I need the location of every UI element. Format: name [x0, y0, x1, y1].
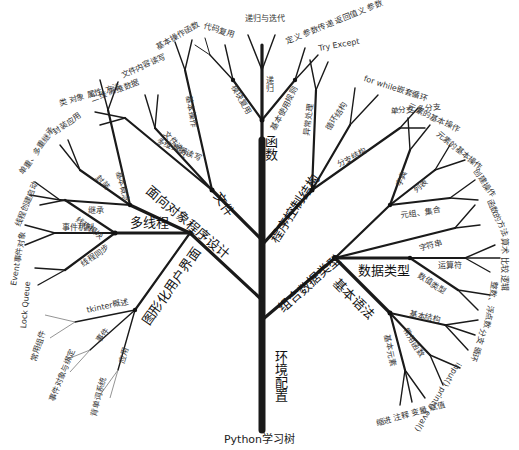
diagram-caption: Python学习树 — [0, 430, 519, 446]
label-datatype: 数据类型 — [358, 264, 410, 277]
label-thread: 多线程 — [130, 216, 169, 229]
leaf-arith-compare: 算术 比较 逻辑 — [500, 238, 508, 291]
label-trunk: 环境配置 — [274, 350, 287, 402]
sub-event-mechanism: 事件机制 — [62, 224, 94, 232]
label-functions: 函数 — [264, 135, 277, 161]
leaf-recursion-iteration: 递归与迭代 — [245, 15, 285, 23]
sub-inheritance: 继承 — [88, 207, 104, 215]
sub-recursion: 递归 — [264, 76, 272, 92]
sub-operator: 运算符 — [438, 262, 462, 270]
